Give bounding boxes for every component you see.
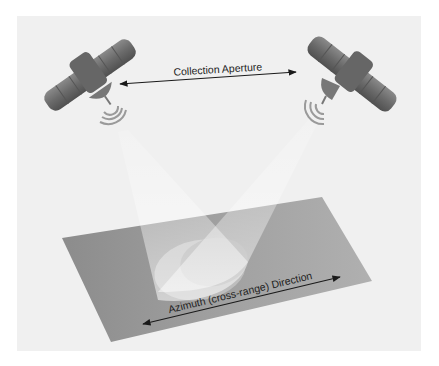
sar-collection-diagram: Collection Aperture Azimuth (cross-range…	[0, 0, 439, 366]
